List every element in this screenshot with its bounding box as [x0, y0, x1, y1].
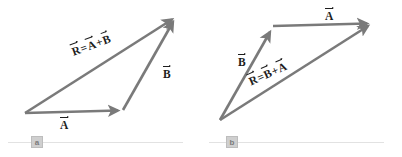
panel-b-caption-label: b — [226, 136, 238, 148]
label-vector-a-symbol: A — [325, 8, 334, 23]
label-vector-a-symbol: A — [60, 117, 69, 132]
label-vector-b-symbol: B — [163, 66, 171, 81]
vector-a-arrow — [273, 24, 367, 27]
label-vector-a-panel-a: A — [60, 117, 69, 132]
panel-a-caption-label: a — [31, 136, 43, 148]
label-vector-b-panel-b: B — [238, 54, 246, 69]
label-vector-b-symbol: B — [238, 54, 246, 69]
label-vector-b-panel-a: B — [163, 66, 171, 81]
resultant-arrow — [220, 26, 368, 120]
panel-a: R=A+B A B a — [0, 0, 201, 157]
vector-addition-figure: R=A+B A B a A — [0, 0, 402, 157]
panel-b-caption-strip: b — [201, 133, 402, 151]
label-vector-a-panel-b: A — [325, 8, 334, 23]
vector-a-arrow — [25, 111, 118, 114]
panel-a-caption-strip: a — [0, 133, 201, 151]
panel-b: A B R=B+A b — [201, 0, 402, 157]
